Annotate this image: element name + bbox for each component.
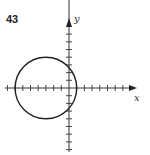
coordinate-plane: x y: [0, 0, 150, 155]
tick-marks: [7, 34, 123, 150]
x-axis-label: x: [134, 92, 140, 103]
x-axis-arrow-icon: [129, 85, 137, 91]
y-axis-label: y: [73, 13, 80, 24]
y-axis-arrow-icon: [66, 18, 72, 27]
